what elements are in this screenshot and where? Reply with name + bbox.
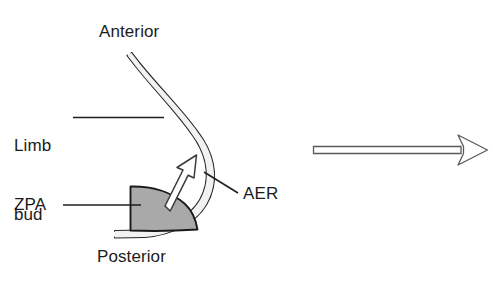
label-posterior: Posterior <box>97 247 166 267</box>
label-zpa: ZPA <box>14 195 46 215</box>
zpa-fill-shape <box>131 186 198 230</box>
label-limb-bud: Limb bud <box>14 88 51 272</box>
limb-bud-diagram: Anterior Posterior Limb bud ZPA AER <box>0 0 493 286</box>
transition-arrow-shaft <box>314 147 462 154</box>
label-anterior: Anterior <box>99 22 159 42</box>
transition-arrow-head <box>458 135 488 165</box>
label-limb-bud-line1: Limb <box>14 134 51 157</box>
zpa-region <box>131 186 198 230</box>
label-aer: AER <box>243 184 278 204</box>
diagram-canvas <box>0 0 493 286</box>
transition-arrow <box>314 135 488 165</box>
